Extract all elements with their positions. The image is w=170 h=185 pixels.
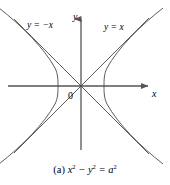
asymptote-right-label: y = x <box>104 23 124 33</box>
origin-label: 0 <box>68 91 73 101</box>
figure-caption: (a) x2 − y2 = a2 <box>0 162 170 175</box>
hyperbola-plot <box>0 0 170 185</box>
y-axis-label: y <box>73 12 77 22</box>
caption-equation: x2 − y2 = a2 <box>68 164 117 175</box>
axes-group <box>8 19 148 150</box>
asymptote-left-label: y = −x <box>27 21 53 31</box>
caption-eq-x-exp: 2 <box>72 162 75 169</box>
x-axis-label: x <box>152 89 156 99</box>
caption-eq-equals: = <box>98 164 105 175</box>
hyperbola-figure: y = −x y = x y x 0 (a) x2 − y2 = a2 <box>0 0 170 185</box>
caption-eq-minus: − <box>78 164 85 175</box>
caption-eq-a-exp: 2 <box>113 162 116 169</box>
caption-eq-y-exp: 2 <box>93 162 96 169</box>
caption-tag: (a) <box>53 164 65 175</box>
